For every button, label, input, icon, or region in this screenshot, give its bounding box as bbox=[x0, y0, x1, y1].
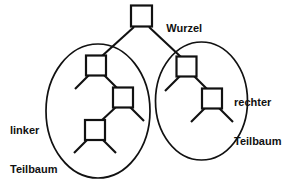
right-subtree-label-line2: Teilbaum bbox=[234, 135, 281, 148]
edge-root-to-left-child bbox=[102, 27, 134, 56]
node-left-1 bbox=[86, 56, 106, 76]
leaf-stub-l2-right bbox=[130, 107, 144, 121]
node-right-2 bbox=[202, 89, 222, 109]
root-label-text: Wurzel bbox=[166, 22, 202, 34]
binary-tree-diagram: Wurzel linker Teilbaum rechter Teilbaum bbox=[0, 0, 299, 185]
left-subtree-label-line2: Teilbaum bbox=[10, 163, 57, 176]
leaf-stub-l3-right bbox=[102, 139, 116, 153]
node-right-1 bbox=[177, 57, 197, 77]
right-subtree-label: rechter Teilbaum bbox=[234, 70, 281, 174]
leaf-stub-l3-left bbox=[74, 139, 88, 153]
leaf-stub-r2-left bbox=[191, 108, 205, 122]
leaf-stub-r2-right bbox=[219, 108, 233, 122]
left-subtree-label: linker Teilbaum bbox=[10, 98, 57, 185]
right-subtree-label-line1: rechter bbox=[234, 96, 281, 109]
node-left-2 bbox=[113, 88, 133, 108]
root-label: Wurzel bbox=[154, 9, 202, 48]
node-left-3 bbox=[85, 120, 105, 140]
leaf-stub-r1-left bbox=[165, 76, 180, 91]
leaf-stub-l1-left bbox=[75, 75, 89, 89]
node-root bbox=[131, 6, 152, 27]
left-subtree-label-line1: linker bbox=[10, 124, 57, 137]
